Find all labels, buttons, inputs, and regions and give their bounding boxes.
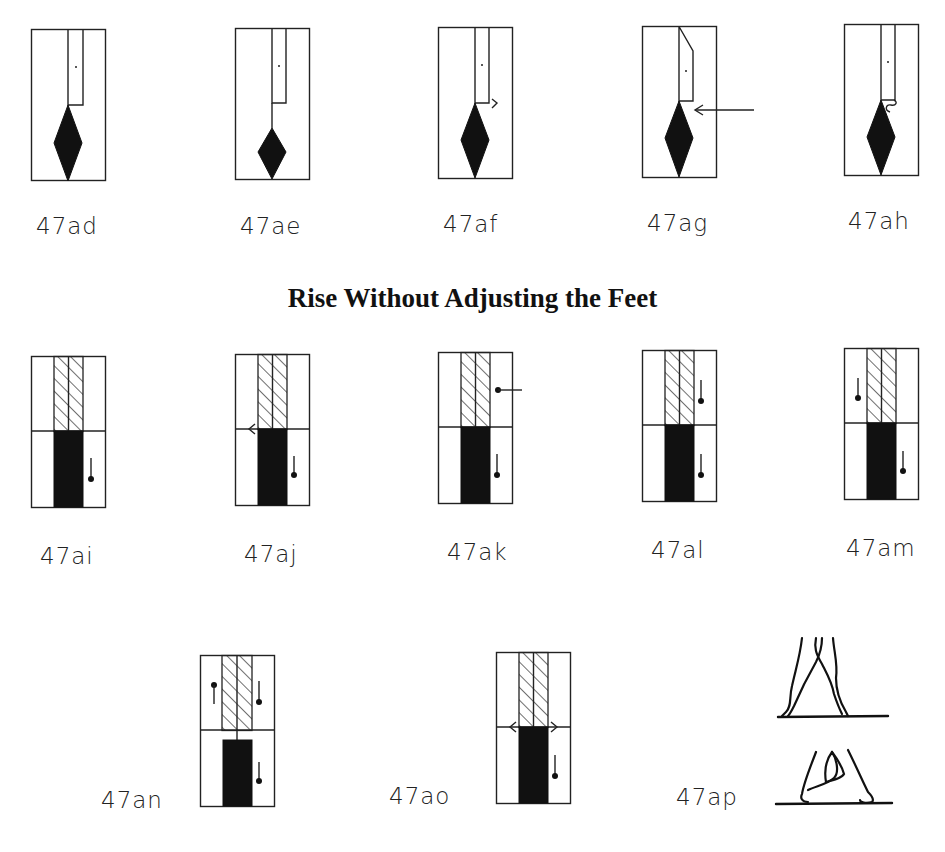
figure-label: 47am [846, 535, 916, 561]
diamond-icon [867, 100, 895, 175]
staff-diagram-47an [200, 655, 276, 810]
pin-icon [291, 472, 297, 478]
pin-icon [256, 778, 262, 784]
staff-diagram-47ae [235, 28, 311, 183]
figure-47ah [844, 24, 924, 179]
pin-icon [900, 468, 906, 474]
figure-label: 47al [651, 537, 705, 563]
figure-47af [438, 27, 518, 182]
figure-label: 47af [443, 211, 498, 237]
diamond-icon [258, 128, 286, 179]
figure-47al [642, 350, 718, 505]
figure-label: 47an [101, 787, 163, 813]
diamond-icon [54, 105, 82, 181]
staff-diagram-47am [844, 348, 920, 503]
figure-label: 47ad [36, 213, 98, 239]
staff-diagram-47ag [642, 26, 762, 181]
pin-icon [698, 472, 704, 478]
diamond-icon [461, 103, 489, 178]
figure-47an [200, 655, 276, 810]
staff-diagram-47aj [235, 354, 311, 509]
figure-47ag [642, 26, 762, 181]
section-heading: Rise Without Adjusting the Feet [0, 283, 945, 314]
pin-icon [552, 773, 558, 779]
turn-sign-icon [886, 100, 896, 112]
figure-label: 47ai [40, 543, 94, 569]
staff-diagram-47al [642, 350, 718, 505]
chevron-right-icon [492, 99, 497, 108]
figure-47ae [235, 28, 311, 183]
feet-front-view-illustration [778, 638, 888, 717]
figure-label: 47ag [647, 210, 708, 236]
figure-47ao [496, 652, 572, 807]
figure-label: 47ae [240, 213, 302, 239]
staff-diagram-47af [438, 27, 518, 182]
feet-illustration-47ap [776, 636, 896, 816]
figure-label: 47ak [447, 539, 508, 565]
pin-icon [698, 398, 704, 404]
pin-icon [256, 699, 262, 705]
staff-diagram-47ah [844, 24, 924, 179]
staff-diagram-47ak [438, 352, 528, 507]
staff-diagram-47ai [31, 356, 107, 511]
pin-icon [88, 476, 94, 482]
figure-label: 47aj [244, 541, 298, 567]
figure-47ad [31, 29, 107, 184]
figure-47aj [235, 354, 311, 509]
figure-label: 47ao [389, 783, 450, 809]
pin-icon [494, 472, 500, 478]
figure-label: 47ap [676, 784, 738, 810]
figure-47ak [438, 352, 528, 507]
figure-47ap [776, 636, 896, 816]
feet-side-view-illustration [776, 750, 892, 804]
staff-diagram-47ad [31, 29, 107, 184]
staff-diagram-47ao [496, 652, 572, 807]
figure-label: 47ah [848, 208, 910, 234]
figure-47ai [31, 356, 107, 511]
diamond-icon [665, 101, 693, 177]
figure-47am [844, 348, 920, 503]
pin-icon [855, 395, 861, 401]
